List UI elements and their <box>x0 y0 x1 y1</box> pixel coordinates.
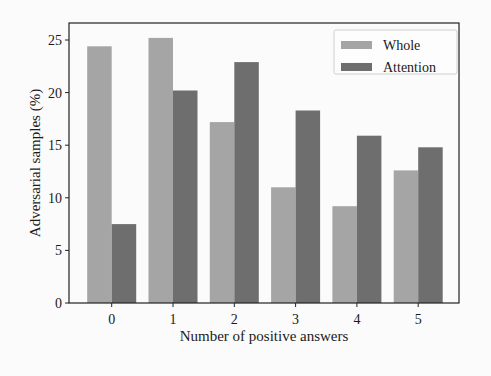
x-tick-label: 5 <box>415 312 422 327</box>
x-tick-label: 4 <box>353 312 360 327</box>
bar-whole-5 <box>394 170 419 303</box>
bar-attention-3 <box>296 111 321 304</box>
legend-swatch-whole <box>341 41 372 49</box>
x-axis-label: Number of positive answers <box>180 328 349 344</box>
legend-label-whole: Whole <box>383 38 420 53</box>
x-tick-label: 3 <box>292 312 299 327</box>
x-axis-ticks: 012345 <box>108 303 422 327</box>
y-tick-label: 10 <box>48 191 62 206</box>
bar-attention-4 <box>357 136 382 303</box>
bar-whole-0 <box>87 46 112 303</box>
legend-label-attention: Attention <box>383 60 436 75</box>
y-tick-label: 5 <box>55 243 62 258</box>
y-tick-label: 15 <box>48 138 62 153</box>
bar-attention-5 <box>418 147 443 303</box>
x-tick-label: 1 <box>170 312 177 327</box>
y-tick-label: 25 <box>48 33 62 48</box>
y-tick-label: 20 <box>48 86 62 101</box>
bar-attention-1 <box>173 91 198 304</box>
y-axis-ticks: 0510152025 <box>48 33 69 311</box>
bar-whole-4 <box>332 206 357 303</box>
legend-swatch-attention <box>341 63 372 71</box>
bar-whole-2 <box>210 122 235 303</box>
bar-whole-1 <box>149 38 174 303</box>
bar-attention-0 <box>112 224 137 303</box>
x-tick-label: 0 <box>108 312 115 327</box>
bar-chart-figure: 0510152025 012345 Number of positive ans… <box>0 0 491 376</box>
y-axis-label: Adversarial samples (%) <box>27 89 44 237</box>
bar-whole-3 <box>271 187 296 303</box>
chart-canvas: 0510152025 012345 Number of positive ans… <box>0 0 491 376</box>
bars-group <box>87 38 443 303</box>
bar-attention-2 <box>234 62 258 303</box>
x-tick-label: 2 <box>231 312 238 327</box>
y-tick-label: 0 <box>55 296 62 311</box>
legend: Whole Attention <box>334 30 457 75</box>
